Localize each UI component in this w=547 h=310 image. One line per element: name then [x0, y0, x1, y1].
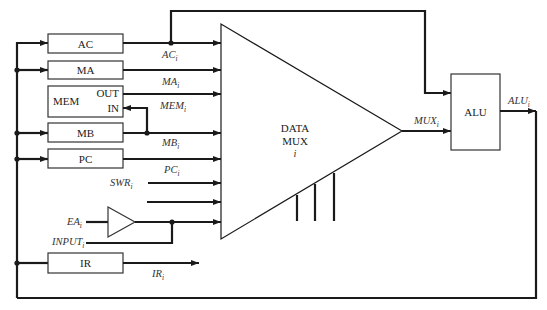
signal-ir: IRi — [151, 268, 164, 282]
signal-pc: PCi — [163, 164, 180, 178]
alu-label: ALU — [464, 106, 487, 118]
datapath-diagram: AC ACi MA MAi MEM OUT IN MEMi MB MBi PC … — [0, 0, 547, 310]
signal-input: INPUTi — [51, 236, 84, 250]
memory-out-label: OUT — [96, 87, 119, 99]
register-pc-label: PC — [79, 153, 92, 165]
signal-ma: MAi — [161, 76, 179, 90]
buffer-triangle — [108, 207, 135, 237]
memory-label: MEM — [53, 95, 80, 107]
register-mb: MB MBi — [48, 123, 221, 151]
junction-dot — [14, 130, 19, 135]
data-mux: DATA MUX i MUXi — [221, 24, 451, 239]
mux-line3: i — [294, 148, 297, 159]
signal-ea: EAi — [66, 216, 82, 230]
signal-mem: MEMi — [159, 100, 186, 114]
register-ir: IR IRi — [48, 253, 199, 282]
memory-in-label: IN — [107, 102, 119, 114]
register-ir-label: IR — [80, 257, 92, 269]
signal-alu: ALUi — [507, 95, 530, 109]
signal-swr: SWRi — [110, 177, 133, 191]
junction-dot — [144, 130, 149, 135]
register-ac-label: AC — [78, 38, 93, 50]
signal-mux: MUXi — [413, 115, 439, 129]
alu-block: ALU ALUi — [451, 74, 536, 150]
register-pc: PC PCi — [48, 149, 221, 178]
signal-mb: MBi — [161, 137, 179, 151]
mux-line2: MUX — [282, 135, 308, 147]
mux-line1: DATA — [281, 122, 310, 134]
junction-dot — [14, 67, 19, 72]
signal-ac: ACi — [161, 49, 178, 63]
junction-dot — [14, 156, 19, 161]
register-mb-label: MB — [77, 127, 94, 139]
input-ea: EAi — [66, 207, 221, 237]
junction-dot — [14, 260, 19, 265]
input-swr: SWRi — [110, 177, 221, 191]
register-ma-label: MA — [77, 64, 95, 76]
